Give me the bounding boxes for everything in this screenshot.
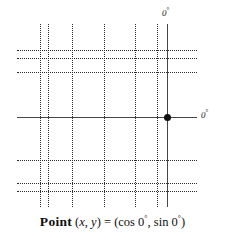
figure-caption: Point(x, y) = (cos 0°, sin 0°)	[0, 214, 225, 230]
grid-line-horizontal	[17, 58, 197, 59]
grid-plot-area: 0° 0°	[0, 0, 225, 210]
caption-equals: =	[104, 215, 111, 229]
caption-expression: (x, y) = (cos 0°, sin 0°)	[72, 215, 185, 229]
caption-coord-comma: ,	[85, 215, 88, 229]
grid-line-vertical	[72, 24, 73, 207]
caption-lead: Point	[40, 214, 72, 229]
degree-symbol-icon: °	[206, 108, 209, 116]
point-marker	[164, 114, 171, 121]
grid-line-vertical	[48, 24, 49, 207]
grid-line-vertical	[157, 24, 158, 207]
grid-line-vertical	[104, 24, 105, 207]
grid-line-vertical	[135, 24, 136, 207]
angle-label-top: 0°	[162, 6, 169, 18]
caption-close-coord: )	[97, 215, 101, 229]
caption-value-comma: ,	[148, 215, 151, 229]
degree-symbol-icon: °	[167, 6, 170, 14]
trig-point-figure: 0° 0° Point(x, y) = (cos 0°, sin 0°)	[0, 0, 225, 243]
grid-line-horizontal	[17, 191, 197, 192]
angle-label-right: 0°	[201, 108, 208, 120]
caption-close-value: )	[181, 215, 185, 229]
grid-line-vertical	[40, 24, 41, 207]
grid-line-horizontal	[17, 160, 197, 161]
caption-cos-term: cos 0	[118, 215, 144, 229]
caption-sin-term: sin 0	[154, 215, 178, 229]
grid-line-horizontal	[17, 72, 197, 73]
grid-line-horizontal	[17, 183, 197, 184]
grid-line-horizontal	[17, 50, 197, 51]
